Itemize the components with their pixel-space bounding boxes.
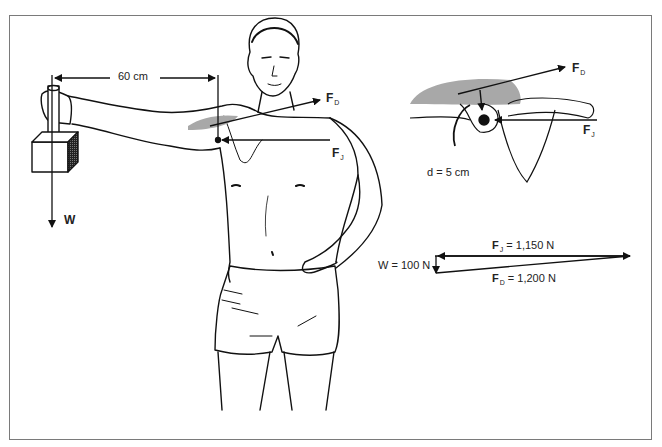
- inset-deltoid-force-label: FD: [572, 62, 585, 74]
- head: [248, 18, 299, 96]
- triangle-weight-label: W = 100 N: [378, 260, 430, 271]
- force-triangle: [435, 256, 630, 273]
- raised-arm-top: [68, 96, 258, 113]
- deltoid-force-label: FD: [326, 92, 339, 104]
- weight-block: [32, 142, 68, 172]
- human-figure: [32, 18, 382, 410]
- distance-label: 60 cm: [118, 71, 148, 82]
- deltoid-muscle: [188, 115, 238, 130]
- torso-left: [220, 148, 230, 282]
- triangle-joint-force-label: FJ = 1,150 N: [492, 240, 554, 251]
- joint-force-label: FJ: [332, 147, 344, 159]
- moment-arm-label: d = 5 cm: [427, 167, 470, 178]
- shorts: [215, 266, 339, 355]
- force-lines: [52, 75, 330, 227]
- triangle-deltoid-force-label: FD = 1,200 N: [492, 273, 556, 284]
- diagram-artwork: [0, 0, 662, 447]
- weight-label: W: [64, 214, 75, 226]
- inset-joint-force-label: FJ: [583, 124, 595, 136]
- torso-right: [330, 118, 358, 262]
